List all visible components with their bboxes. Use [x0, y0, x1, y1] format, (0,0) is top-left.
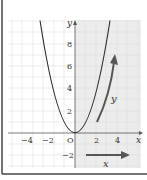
y-arrow-label: y [110, 93, 117, 104]
y-axis-label: y [66, 18, 73, 28]
y-tick-label: 6 [67, 62, 72, 71]
y-tick-label: 2 [67, 107, 72, 116]
figure-frame: y x O −4 −2 2 4 8 6 4 2 −2 y x [0, 0, 147, 180]
x-tick-label: 4 [115, 136, 120, 145]
x-axis-label: x [136, 135, 141, 145]
y-tick-label: −2 [62, 151, 74, 160]
y-tick-label: 4 [67, 84, 72, 93]
x-tick-label: −4 [21, 136, 33, 145]
y-tick-label: 8 [67, 40, 72, 49]
x-tick-label: 2 [94, 136, 99, 145]
origin-label: O [67, 136, 74, 145]
x-arrow-label: x [103, 158, 109, 169]
x-tick-label: −2 [42, 136, 54, 145]
parabola-chart: y x O −4 −2 2 4 8 6 4 2 −2 y x [0, 0, 147, 180]
